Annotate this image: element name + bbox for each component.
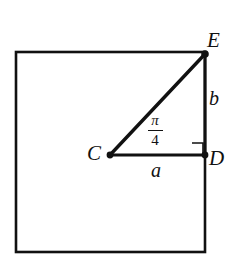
vertex-dot-c <box>107 152 114 159</box>
right-angle-marker <box>192 143 203 154</box>
angle-denominator: 4 <box>144 131 166 149</box>
side-label-a: a <box>151 160 161 180</box>
figure-canvas <box>0 0 235 269</box>
vertex-dot-d <box>202 152 209 159</box>
angle-label-pi-over-4: π 4 <box>144 113 166 149</box>
side-label-b: b <box>209 88 219 108</box>
vertex-label-c: C <box>87 143 101 164</box>
angle-numerator: π <box>144 113 166 130</box>
vertex-label-e: E <box>207 30 220 51</box>
vertex-label-d: D <box>209 148 224 169</box>
geometry-diagram: E C D b a π 4 <box>0 0 235 269</box>
